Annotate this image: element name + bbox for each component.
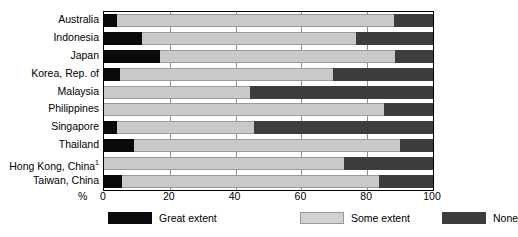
- bar-row: [104, 157, 433, 170]
- x-axis-unit-label: %: [78, 190, 87, 202]
- legend-label: None: [493, 212, 518, 224]
- bar-segment-none: [400, 139, 433, 152]
- bar-segment-some: [117, 14, 393, 27]
- bar-segment-great: [104, 32, 142, 45]
- bar-segment-great: [104, 175, 122, 188]
- bar-row: [104, 32, 433, 45]
- legend-swatch-icon: [442, 212, 486, 224]
- bar-segment-some: [134, 139, 400, 152]
- bar-segment-some: [160, 50, 395, 63]
- bar-segment-none: [333, 68, 433, 81]
- x-tick-label: 0: [100, 190, 106, 202]
- bar-row: [104, 139, 433, 152]
- bar-segment-some: [122, 175, 379, 188]
- bar-segment-none: [395, 50, 433, 63]
- bar-row: [104, 50, 433, 63]
- bar-segment-some: [120, 68, 332, 81]
- bar-row: [104, 68, 433, 81]
- bar-segment-some: [104, 103, 384, 116]
- y-axis-label: Thailand: [0, 138, 99, 151]
- bar-segment-none: [254, 121, 433, 134]
- bar-segment-great: [104, 50, 160, 63]
- y-axis-label: Korea, Rep. of: [0, 67, 99, 80]
- bar-segment-great: [104, 68, 120, 81]
- bar-segment-none: [344, 157, 433, 170]
- bar-segment-some: [117, 121, 254, 134]
- legend-label: Some extent: [351, 212, 410, 224]
- x-tick-label: 40: [229, 190, 241, 202]
- bar-segment-some: [142, 32, 356, 45]
- legend-swatch-icon: [300, 212, 344, 224]
- bar-segment-great: [104, 139, 134, 152]
- y-axis-label: Japan: [0, 49, 99, 62]
- bar-row: [104, 86, 433, 99]
- footnote-marker: 1: [95, 159, 99, 166]
- bar-segment-some: [104, 86, 250, 99]
- y-axis-label: Indonesia: [0, 31, 99, 44]
- x-tick-label: 100: [423, 190, 441, 202]
- bar-row: [104, 121, 433, 134]
- y-axis-label: Hong Kong, China1: [0, 156, 99, 173]
- bar-segment-great: [104, 121, 117, 134]
- x-tick-label: 80: [360, 190, 372, 202]
- x-tick-label: 20: [163, 190, 175, 202]
- y-axis-label: Malaysia: [0, 85, 99, 98]
- y-axis-label: Singapore: [0, 120, 99, 133]
- bar-segment-some: [104, 157, 344, 170]
- y-axis-label: Taiwan, China: [0, 174, 99, 187]
- bar-row: [104, 103, 433, 116]
- bar-segment-none: [250, 86, 433, 99]
- bar-segment-none: [394, 14, 433, 27]
- chart-legend: Great extentSome extentNone: [100, 212, 457, 232]
- bar-segment-none: [379, 175, 433, 188]
- legend-item-great[interactable]: Great extent: [108, 212, 217, 224]
- bar-row: [104, 175, 433, 188]
- y-axis-labels: AustraliaIndonesiaJapanKorea, Rep. ofMal…: [0, 11, 99, 189]
- bar-segment-none: [356, 32, 433, 45]
- bar-row: [104, 14, 433, 27]
- y-axis-label: Australia: [0, 13, 99, 26]
- bar-segment-great: [104, 14, 117, 27]
- x-axis-ticks: 020406080100: [103, 190, 434, 206]
- y-axis-label: Philippines: [0, 102, 99, 115]
- legend-item-none[interactable]: None: [442, 212, 518, 224]
- legend-swatch-icon: [108, 212, 152, 224]
- bar-segment-none: [384, 103, 433, 116]
- legend-label: Great extent: [159, 212, 217, 224]
- x-tick-label: 60: [295, 190, 307, 202]
- legend-item-some[interactable]: Some extent: [300, 212, 410, 224]
- plot-area: [103, 11, 434, 191]
